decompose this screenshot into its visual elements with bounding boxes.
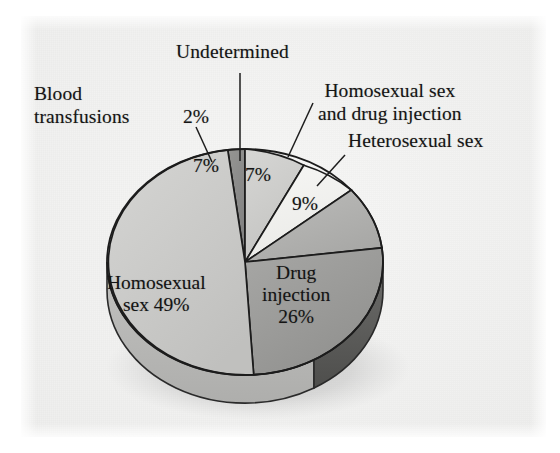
label-blood-transfusions-line1: Blood (34, 83, 82, 104)
slice-label-homosexual-sex-line1: Homosexual (107, 272, 206, 294)
label-hs-drug-line1: Homosexual sex (324, 80, 455, 101)
label-hs-drug-line2: and drug injection (318, 102, 462, 125)
label-blood-transfusions-percent: 2% (183, 105, 209, 128)
slice-label-homosexual-sex: Homosexual sex 49% (107, 272, 206, 316)
label-homosexual-sex-and-drug-injection: Homosexual sex and drug injection (318, 79, 462, 125)
figure-page: Undetermined Blood transfusions 2% Homos… (0, 0, 560, 453)
slice-value-undetermined: 7% (193, 155, 219, 177)
slice-label-drug-injection: Drug injection 26% (262, 262, 330, 328)
leader-line-homosexual-sex-and-drug-injection (288, 103, 313, 157)
pie-chart-graphic (0, 0, 560, 453)
label-blood-transfusions: Blood transfusions (34, 82, 129, 128)
slice-value-heterosexual-sex: 9% (292, 193, 318, 215)
slice-value-homosexual-sex-and-drug-injection: 7% (245, 164, 271, 186)
slice-value-drug-injection: 26% (262, 306, 330, 328)
slice-label-drug-injection-line2: injection (262, 284, 330, 306)
label-undetermined: Undetermined (176, 40, 289, 63)
slice-value-homosexual-sex: sex 49% (107, 294, 206, 316)
slice-label-drug-injection-line1: Drug (262, 262, 330, 284)
label-heterosexual-sex: Heterosexual sex (348, 129, 483, 152)
label-blood-transfusions-line2: transfusions (34, 105, 129, 128)
